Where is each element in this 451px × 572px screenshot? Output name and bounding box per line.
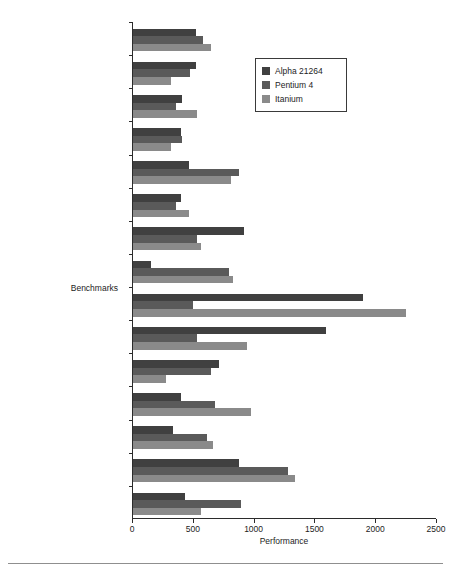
bar [133, 408, 251, 416]
bar [133, 426, 173, 434]
bar [133, 136, 182, 144]
bar [133, 309, 406, 317]
y-axis-tick [129, 155, 133, 156]
legend-item-label: Pentium 4 [275, 80, 313, 90]
bar [133, 508, 201, 516]
y-axis-tick [129, 320, 133, 321]
bar [133, 393, 181, 401]
legend-swatch-icon [262, 81, 270, 89]
y-axis-tick [129, 55, 133, 56]
bar [133, 95, 182, 103]
bar [133, 401, 215, 409]
y-axis-tick [129, 22, 133, 23]
bar [133, 143, 171, 151]
bar [133, 62, 196, 70]
y-axis-tick [129, 420, 133, 421]
bar [133, 493, 185, 501]
bar [133, 475, 295, 483]
bar [133, 161, 189, 169]
x-axis-title: Performance [132, 536, 436, 546]
x-axis-tick [193, 519, 194, 523]
x-axis-tick [436, 519, 437, 523]
bar [133, 500, 241, 508]
x-axis-tick [254, 519, 255, 523]
x-axis-tick-label: 1000 [244, 524, 263, 534]
x-axis-tick [314, 519, 315, 523]
bar [133, 261, 151, 269]
bar [133, 467, 288, 475]
y-axis-tick [129, 188, 133, 189]
legend-item[interactable]: Pentium 4 [262, 78, 340, 92]
x-axis-tick-label: 1500 [305, 524, 324, 534]
chart-figure: SPECfp_base2000apsisixtrackfma3dlucasamm… [0, 0, 451, 572]
legend-item[interactable]: Itanium [262, 92, 340, 106]
bar [133, 276, 233, 284]
bar [133, 441, 213, 449]
bar [133, 327, 326, 335]
x-axis-tick [375, 519, 376, 523]
x-axis-tick-label: 2000 [366, 524, 385, 534]
bar [133, 128, 181, 136]
y-axis-tick [129, 121, 133, 122]
bar [133, 77, 171, 85]
bar [133, 194, 181, 202]
bar [133, 375, 166, 383]
bar [133, 29, 196, 37]
x-axis-tick-label: 0 [130, 524, 135, 534]
bar [133, 36, 203, 44]
y-axis-title: Benchmarks [10, 283, 118, 293]
bar [133, 235, 197, 243]
x-axis-tick-label: 2500 [427, 524, 446, 534]
bar [133, 434, 207, 442]
bar [133, 110, 197, 118]
bar [133, 176, 231, 184]
y-axis-tick [129, 486, 133, 487]
bar [133, 103, 176, 111]
bar [133, 360, 219, 368]
bar [133, 459, 239, 467]
bar [133, 44, 211, 52]
bar [133, 69, 190, 77]
bar [133, 268, 229, 276]
footer-rule [8, 563, 443, 564]
legend: Alpha 21264Pentium 4Itanium [255, 58, 347, 112]
bar [133, 202, 176, 210]
bar [133, 294, 363, 302]
legend-swatch-icon [262, 95, 270, 103]
legend-item[interactable]: Alpha 21264 [262, 64, 340, 78]
bar [133, 301, 193, 309]
bar [133, 227, 244, 235]
x-axis-tick [132, 519, 133, 523]
y-axis-tick [129, 386, 133, 387]
y-axis-tick [129, 287, 133, 288]
bar [133, 342, 247, 350]
legend-swatch-icon [262, 67, 270, 75]
y-axis-tick [129, 453, 133, 454]
y-axis-tick [129, 353, 133, 354]
bar [133, 334, 197, 342]
x-axis-tick-label: 500 [186, 524, 200, 534]
y-axis-tick [129, 254, 133, 255]
legend-item-label: Itanium [275, 94, 303, 104]
legend-item-label: Alpha 21264 [275, 66, 323, 76]
bar [133, 368, 211, 376]
bar [133, 243, 201, 251]
bar [133, 169, 239, 177]
bar [133, 210, 189, 218]
y-axis-tick [129, 221, 133, 222]
y-axis-tick [129, 88, 133, 89]
